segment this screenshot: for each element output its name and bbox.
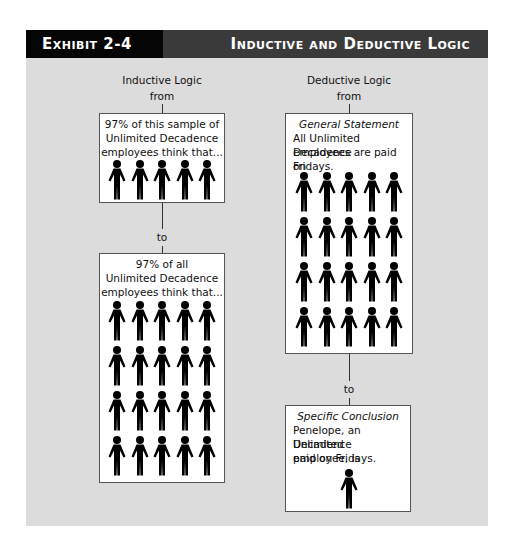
population-line-3: employees think that... xyxy=(100,285,224,299)
population-line-2: Unlimited Decadence xyxy=(100,271,224,285)
person-icon xyxy=(153,346,171,386)
population-box: 97% of all Unlimited Decadence employees… xyxy=(99,253,225,483)
population-line-1: 97% of all xyxy=(100,257,224,271)
person-icon xyxy=(153,301,171,341)
connector-line xyxy=(349,398,350,405)
exhibit-panel xyxy=(26,58,488,526)
person-icon xyxy=(340,307,358,347)
person-icon xyxy=(363,262,381,302)
general-statement-box: General Statement All Unlimited Decadenc… xyxy=(285,113,413,354)
general-statement-title: General Statement xyxy=(286,117,412,131)
specific-conclusion-box: Specific Conclusion Penelope, an Unlimit… xyxy=(285,405,411,512)
connector-line xyxy=(162,203,163,229)
person-icon xyxy=(176,160,194,200)
person-icon xyxy=(108,160,126,200)
person-icon xyxy=(363,172,381,212)
person-icon xyxy=(153,436,171,476)
person-icon xyxy=(176,346,194,386)
person-icon xyxy=(363,217,381,257)
person-icon xyxy=(153,160,171,200)
connector-line xyxy=(349,354,350,381)
exhibit-label-bar: Exhibit 2-4 xyxy=(26,30,163,58)
person-icon xyxy=(340,469,358,509)
person-icon xyxy=(385,307,403,347)
person-icon xyxy=(176,391,194,431)
deductive-to-label: to xyxy=(344,383,355,395)
connector-line xyxy=(162,246,163,253)
person-icon xyxy=(340,262,358,302)
sample-line-2: Unlimited Decadence xyxy=(100,131,224,145)
person-icon xyxy=(198,160,216,200)
person-icon xyxy=(131,346,149,386)
person-icon xyxy=(131,301,149,341)
exhibit-label: Exhibit 2-4 xyxy=(42,30,132,58)
sample-line-3: employees think that... xyxy=(100,145,224,159)
person-icon xyxy=(198,391,216,431)
person-icon xyxy=(108,436,126,476)
connector-line xyxy=(349,104,350,113)
exhibit-title: Inductive and Deductive Logic xyxy=(231,30,470,58)
person-icon xyxy=(318,262,336,302)
inductive-to-label: to xyxy=(157,231,168,243)
person-icon xyxy=(131,436,149,476)
sample-box: 97% of this sample of Unlimited Decadenc… xyxy=(99,113,225,203)
person-icon xyxy=(131,160,149,200)
person-icon xyxy=(318,307,336,347)
connector-line xyxy=(162,104,163,113)
person-icon xyxy=(385,217,403,257)
person-icon xyxy=(176,436,194,476)
person-icon xyxy=(131,391,149,431)
person-icon xyxy=(385,172,403,212)
person-icon xyxy=(198,346,216,386)
person-icon xyxy=(363,307,381,347)
person-icon xyxy=(295,172,313,212)
person-icon xyxy=(198,436,216,476)
person-icon xyxy=(108,391,126,431)
person-icon xyxy=(198,301,216,341)
deductive-heading: Deductive Logic xyxy=(307,74,391,86)
person-icon xyxy=(153,391,171,431)
person-icon xyxy=(295,307,313,347)
person-icon xyxy=(318,172,336,212)
person-icon xyxy=(318,217,336,257)
specific-conclusion-title: Specific Conclusion xyxy=(286,409,410,423)
general-line-3: Fridays. xyxy=(293,159,334,173)
person-icon xyxy=(295,262,313,302)
person-icon xyxy=(295,217,313,257)
deductive-from-label: from xyxy=(337,90,361,102)
sample-line-1: 97% of this sample of xyxy=(100,117,224,131)
specific-line-3: paid on Fridays. xyxy=(293,451,376,465)
person-icon xyxy=(340,217,358,257)
person-icon xyxy=(176,301,194,341)
person-icon xyxy=(108,346,126,386)
exhibit-title-bar: Inductive and Deductive Logic xyxy=(163,30,488,58)
inductive-from-label: from xyxy=(150,90,174,102)
person-icon xyxy=(108,301,126,341)
person-icon xyxy=(340,172,358,212)
person-icon xyxy=(385,262,403,302)
inductive-heading: Inductive Logic xyxy=(122,74,201,86)
